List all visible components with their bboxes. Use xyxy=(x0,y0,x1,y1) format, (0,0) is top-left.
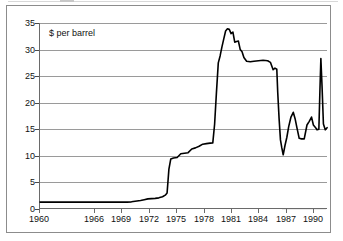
x-tick-mark xyxy=(121,209,122,213)
series-annotation-label: $ per barrel xyxy=(49,28,95,38)
series-path xyxy=(40,29,327,202)
x-tick-label: 1978 xyxy=(194,214,214,224)
scan-artifact-line xyxy=(8,1,338,2)
y-tick-mark xyxy=(35,182,39,183)
x-tick-mark xyxy=(149,209,150,213)
scan-artifact-mark xyxy=(60,0,74,2)
y-tick-label: 30 xyxy=(25,46,35,55)
y-tick-mark xyxy=(35,103,39,104)
y-tick-label: 20 xyxy=(25,99,35,108)
y-tick-mark xyxy=(35,50,39,51)
y-tick-label: 25 xyxy=(25,72,35,81)
price-series-line xyxy=(40,23,328,209)
x-tick-label: 1969 xyxy=(111,214,131,224)
x-tick-label: 1975 xyxy=(166,214,186,224)
x-tick-mark xyxy=(258,209,259,213)
x-tick-label: 1987 xyxy=(276,214,296,224)
x-tick-mark xyxy=(231,209,232,213)
x-tick-mark xyxy=(176,209,177,213)
x-axis-labels: 1960196619691972197519781981198419871990 xyxy=(39,214,327,228)
y-tick-label: 35 xyxy=(25,19,35,28)
x-tick-mark xyxy=(286,209,287,213)
y-tick-mark xyxy=(35,76,39,77)
x-tick-label: 1960 xyxy=(29,214,49,224)
x-tick-label: 1966 xyxy=(84,214,104,224)
plot-area xyxy=(39,23,327,209)
x-tick-label: 1990 xyxy=(303,214,323,224)
figure-frame: 05101520253035 1960196619691972197519781… xyxy=(6,5,331,233)
x-tick-mark xyxy=(313,209,314,213)
x-tick-mark xyxy=(39,209,40,213)
x-tick-label: 1972 xyxy=(139,214,159,224)
x-tick-label: 1984 xyxy=(248,214,268,224)
x-tick-mark xyxy=(204,209,205,213)
y-tick-mark xyxy=(35,156,39,157)
y-tick-mark xyxy=(35,129,39,130)
chart-screenshot: 05101520253035 1960196619691972197519781… xyxy=(0,0,343,241)
y-tick-label: 15 xyxy=(25,125,35,134)
y-axis-labels: 05101520253035 xyxy=(13,23,35,209)
x-tick-label: 1981 xyxy=(221,214,241,224)
x-tick-mark xyxy=(94,209,95,213)
y-tick-label: 10 xyxy=(25,152,35,161)
y-tick-mark xyxy=(35,23,39,24)
